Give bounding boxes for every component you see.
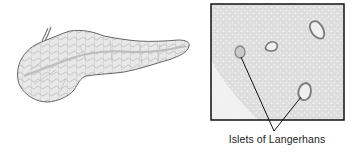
pancreas-outline [18, 30, 190, 102]
pancreas-illustration [18, 27, 190, 102]
islet-2 [265, 42, 277, 51]
micrograph-panel [211, 4, 344, 120]
islet-1 [235, 46, 245, 58]
pancreas-diagram [0, 0, 357, 154]
islets-of-langerhans-label: Islets of Langerhans [226, 133, 328, 145]
